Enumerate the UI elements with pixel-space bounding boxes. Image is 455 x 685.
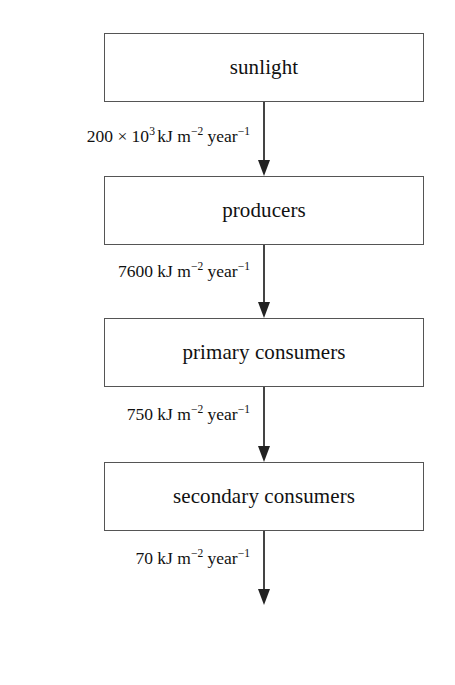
arrow-shaft [263, 102, 265, 162]
arrow-shaft [263, 531, 265, 591]
flow-unit-area-exponent: −2 [191, 260, 203, 272]
flow-unit-time: year [208, 261, 238, 281]
flow-unit-area-exponent: −2 [191, 125, 203, 137]
flow-unit-area-exponent: −2 [191, 403, 203, 415]
node-producers-label: producers [222, 200, 306, 221]
flow-label-primary-to-secondary-consumers: 750 kJ m−2 year−1 [20, 406, 250, 424]
node-secondary-consumers: secondary consumers [104, 462, 424, 531]
flow-unit-energy: kJ m [157, 126, 191, 146]
energy-flow-diagram: sunlight 200 × 103kJ m−2 year−1 producer… [0, 0, 455, 685]
flow-unit-area-exponent: −2 [191, 547, 203, 559]
flow-unit-energy: kJ m [157, 548, 191, 568]
flow-value: 7600 [118, 261, 157, 281]
flow-unit-time-exponent: −1 [238, 547, 250, 559]
flow-value-exponent: 3 [149, 125, 155, 137]
flow-label-producers-to-primary-consumers: 7600 kJ m−2 year−1 [20, 263, 250, 281]
flow-value: 70 [135, 548, 157, 568]
arrowhead-icon [258, 160, 270, 176]
flow-value: 750 [127, 404, 158, 424]
node-sunlight: sunlight [104, 33, 424, 102]
flow-unit-time-exponent: −1 [238, 260, 250, 272]
node-sunlight-label: sunlight [230, 57, 298, 78]
arrow-shaft [263, 245, 265, 304]
page-top-crop-artifact [0, 0, 455, 3]
flow-unit-time-exponent: −1 [238, 125, 250, 137]
node-primary-consumers: primary consumers [104, 318, 424, 387]
flow-unit-time: year [208, 548, 238, 568]
flow-value: 200 × 10 [87, 126, 149, 146]
flow-label-secondary-to-tertiary-consumers: 70 kJ m−2 year−1 [20, 550, 250, 568]
flow-label-sunlight-to-producers: 200 × 103kJ m−2 year−1 [20, 128, 250, 146]
flow-unit-time: year [208, 126, 238, 146]
flow-unit-time-exponent: −1 [238, 403, 250, 415]
flow-unit-energy: kJ m [157, 404, 191, 424]
arrow-shaft [263, 387, 265, 448]
arrowhead-icon [258, 302, 270, 318]
node-producers: producers [104, 176, 424, 245]
flow-unit-energy: kJ m [157, 261, 191, 281]
node-primary-consumers-label: primary consumers [182, 342, 345, 363]
arrowhead-icon [258, 589, 270, 605]
node-secondary-consumers-label: secondary consumers [173, 486, 355, 507]
flow-unit-time: year [208, 404, 238, 424]
arrowhead-icon [258, 446, 270, 462]
